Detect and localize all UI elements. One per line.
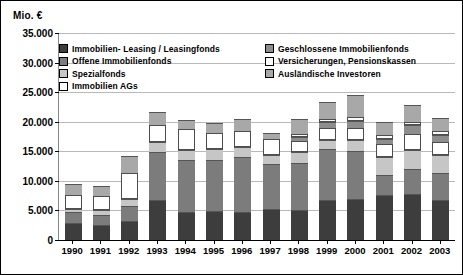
legend-item-label: Immobilien AGs — [72, 81, 138, 91]
x-axis-tick-mark — [327, 240, 328, 244]
x-axis-tick-mark — [242, 240, 243, 244]
bar-segment — [178, 160, 195, 212]
x-axis-tick-mark — [185, 240, 186, 244]
stacked-bar[interactable] — [93, 186, 110, 240]
legend-item[interactable]: Immobilien- Leasing / Leasingfonds — [59, 43, 265, 55]
bar-segment — [432, 118, 449, 131]
bar-segment — [65, 223, 82, 240]
bar-segment — [178, 129, 195, 149]
stacked-bar[interactable] — [178, 120, 195, 240]
x-axis-tick-mark — [270, 240, 271, 244]
legend-item[interactable]: Ausländische Investoren — [265, 68, 453, 80]
legend-item-label: Offene Immobilienfonds — [72, 56, 171, 66]
x-axis-tick: 1999 — [313, 240, 341, 262]
chart-container: Mio. € 35.00030.00025.00020.00015.00010.… — [0, 0, 463, 275]
bar-segment — [263, 209, 280, 240]
y-axis-tick-label: 10.000 — [22, 175, 53, 186]
bar-segment — [432, 142, 449, 155]
bar-segment — [65, 212, 82, 223]
legend-swatch-icon — [59, 69, 68, 78]
bar-segment — [234, 147, 251, 157]
x-axis-tick-label: 1999 — [316, 245, 337, 256]
x-axis-tick: 2000 — [341, 240, 369, 262]
stacked-bar[interactable] — [149, 112, 166, 240]
stacked-bar[interactable] — [432, 118, 449, 240]
stacked-bar[interactable] — [291, 119, 308, 240]
legend-item[interactable]: Versicherungen, Pensionskassen — [265, 56, 453, 68]
x-axis-tick: 1991 — [86, 240, 114, 262]
bar-segment — [149, 142, 166, 152]
stacked-bar[interactable] — [263, 133, 280, 240]
legend-swatch-icon — [59, 57, 68, 66]
stacked-bar[interactable] — [319, 102, 336, 240]
legend-column-right: Geschlossene ImmobilienfondsVersicherung… — [265, 43, 453, 99]
bar-segment — [93, 196, 110, 210]
legend-item-label: Ausländische Investoren — [278, 69, 381, 79]
x-axis-tick-mark — [355, 240, 356, 244]
x-axis-tick: 1998 — [284, 240, 312, 262]
stacked-bar[interactable] — [121, 156, 138, 240]
x-axis-tick-label: 1991 — [90, 245, 111, 256]
x-axis-tick: 2002 — [397, 240, 425, 262]
bar-segment — [404, 150, 421, 170]
bar-segment — [432, 173, 449, 200]
legend-item-label: Versicherungen, Pensionskassen — [278, 56, 416, 66]
stacked-bar[interactable] — [206, 123, 223, 240]
y-axis-title: Mio. € — [13, 10, 43, 21]
bar-segment — [263, 139, 280, 154]
x-axis-tick-mark — [157, 240, 158, 244]
x-axis-tick: 2003 — [426, 240, 454, 262]
x-axis-tick-mark — [129, 240, 130, 244]
x-axis-tick-mark — [298, 240, 299, 244]
bar-segment — [263, 155, 280, 164]
chart-legend: Immobilien- Leasing / LeasingfondsOffene… — [59, 43, 454, 99]
legend-item[interactable]: Spezialfonds — [59, 68, 265, 80]
bar-segment — [319, 102, 336, 119]
legend-column-left: Immobilien- Leasing / LeasingfondsOffene… — [59, 43, 265, 99]
stacked-bar[interactable] — [65, 184, 82, 240]
x-axis-tick-mark — [383, 240, 384, 244]
x-axis-tick-mark — [100, 240, 101, 244]
bar-segment — [234, 157, 251, 211]
x-axis-tick-label: 1994 — [175, 245, 196, 256]
y-axis-tick-label: 20.000 — [22, 116, 53, 127]
x-axis-tick-label: 1998 — [288, 245, 309, 256]
legend-item[interactable]: Geschlossene Immobilienfonds — [265, 43, 453, 55]
stacked-bar[interactable] — [347, 95, 364, 240]
bar-segment — [93, 225, 110, 240]
x-axis-tick-mark — [412, 240, 413, 244]
bar-segment — [65, 195, 82, 209]
x-axis-tick-mark — [72, 240, 73, 244]
x-axis-tick: 1995 — [199, 240, 227, 262]
stacked-bar[interactable] — [404, 105, 421, 240]
stacked-bar[interactable] — [234, 119, 251, 240]
x-axis: 1990199119921993199419951996199719981999… — [58, 240, 454, 262]
bar-segment — [404, 169, 421, 194]
legend-item[interactable]: Offene Immobilienfonds — [59, 56, 265, 68]
legend-swatch-icon — [265, 57, 274, 66]
x-axis-tick-label: 2001 — [373, 245, 394, 256]
bar-segment — [347, 151, 364, 199]
bar-segment — [234, 119, 251, 130]
x-axis-tick: 1990 — [58, 240, 86, 262]
legend-item[interactable]: Immobilien AGs — [59, 81, 265, 93]
bar-segment — [206, 160, 223, 211]
bar-segment — [178, 120, 195, 129]
bar-segment — [206, 133, 223, 149]
x-axis-tick: 1994 — [171, 240, 199, 262]
bar-segment — [206, 123, 223, 133]
bar-segment — [149, 152, 166, 200]
x-axis-tick: 1992 — [115, 240, 143, 262]
stacked-bar[interactable] — [376, 122, 393, 240]
y-axis-tick-label: 30.000 — [22, 57, 53, 68]
bar-segment — [376, 195, 393, 240]
bar-segment — [319, 149, 336, 200]
x-axis-tick: 1996 — [228, 240, 256, 262]
y-axis-tick-label: 35.000 — [22, 28, 53, 39]
y-axis-tick-label: 25.000 — [22, 87, 53, 98]
bar-segment — [206, 211, 223, 240]
bar-segment — [404, 134, 421, 150]
x-axis-tick-mark — [214, 240, 215, 244]
bar-segment — [121, 199, 138, 206]
x-axis-tick: 1997 — [256, 240, 284, 262]
